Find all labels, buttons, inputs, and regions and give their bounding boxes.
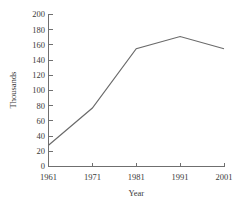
x-tick-label-1981: 1981 bbox=[128, 172, 145, 182]
y-tick-label-60: 60 bbox=[37, 116, 46, 126]
y-tick-label-0: 0 bbox=[41, 161, 45, 171]
x-axis-ticks bbox=[49, 163, 225, 167]
x-tick-label-2001: 2001 bbox=[216, 172, 233, 182]
x-tick-label-1991: 1991 bbox=[172, 172, 189, 182]
y-tick-label-200: 200 bbox=[32, 9, 45, 19]
y-tick-label-100: 100 bbox=[32, 85, 45, 95]
y-tick-label-140: 140 bbox=[32, 55, 45, 65]
y-tick-label-80: 80 bbox=[37, 101, 46, 111]
chart-canvas: 200 180 160 140 120 100 80 60 40 20 0 19… bbox=[0, 0, 248, 207]
x-axis-title: Year bbox=[128, 188, 144, 198]
line-chart: 200 180 160 140 120 100 80 60 40 20 0 19… bbox=[0, 0, 248, 207]
y-tick-label-180: 180 bbox=[32, 25, 45, 35]
y-tick-label-20: 20 bbox=[37, 146, 46, 156]
y-tick-label-160: 160 bbox=[32, 40, 45, 50]
x-tick-label-1961: 1961 bbox=[40, 172, 57, 182]
data-series-line bbox=[49, 37, 225, 146]
y-tick-label-120: 120 bbox=[32, 70, 45, 80]
y-axis-title: Thousands bbox=[8, 72, 18, 109]
y-tick-label-40: 40 bbox=[37, 131, 46, 141]
x-tick-label-1971: 1971 bbox=[84, 172, 101, 182]
